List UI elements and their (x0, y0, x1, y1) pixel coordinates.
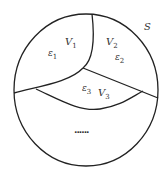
boundary-v1-v2 (83, 14, 93, 68)
region-eps1-label: ε1 (48, 48, 57, 61)
partition-diagram: S V1 ε1 V2 ε2 ε3 V3 ...... (0, 0, 168, 174)
region-v1-label: V1 (65, 36, 77, 50)
region-v2-label: V2 (106, 36, 118, 50)
region-eps2-label: ε2 (115, 52, 124, 65)
region-v3-label: V3 (98, 87, 110, 101)
region-eps3-label: ε3 (82, 83, 91, 96)
boundary-v2-v3 (83, 68, 158, 98)
ellipsis-more-regions: ...... (74, 125, 89, 135)
set-label-s: S (144, 21, 151, 32)
boundary-v1-lower (14, 68, 83, 93)
